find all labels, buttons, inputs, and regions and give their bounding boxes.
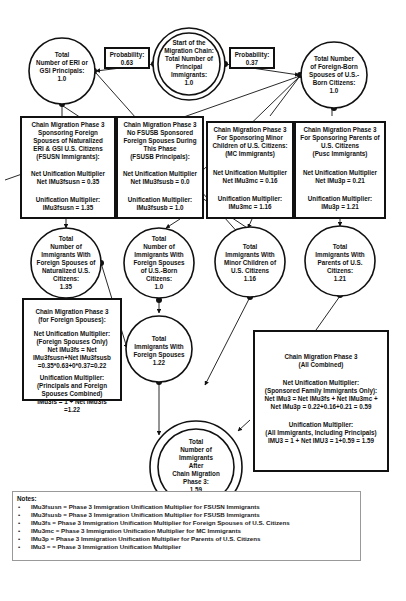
- foreign-spouses-node: Total Immigrants With Foreign Spouses 1.…: [125, 335, 193, 367]
- notes-list: IMu3fsusn = Phase 3 Immigration Unificat…: [17, 503, 356, 551]
- pusc-box: Chain Migration Phase 3 For Sponsoring P…: [294, 121, 386, 219]
- fsusb-title: Chain Migration Phase 3 No FSUSB Sponsor…: [118, 121, 202, 161]
- foreign-spouses-title: Chain Migration Phase 3 (for Foreign Spo…: [24, 308, 120, 324]
- fsusn-mult: Unification Multiplier: IMu3fsusn = 1.35: [22, 196, 114, 212]
- note-item: IMu3mc = Phase 3 Immigration Unification…: [17, 527, 356, 535]
- all-combined-mult: Unification Multiplier: (All Immigrants,…: [255, 421, 387, 445]
- note-item: IMu3fsusb = Phase 3 Immigration Unificat…: [17, 511, 356, 519]
- pusc-title: Chain Migration Phase 3 For Sponsoring P…: [296, 126, 384, 158]
- parents-node: Total Immigrants With Parents of U.S. Ci…: [306, 243, 374, 283]
- fsusn-box: Chain Migration Phase 3 Sponsoring Forei…: [20, 116, 116, 219]
- note-item: IMu3 = = Phase 3 Immigration Unification…: [17, 543, 356, 551]
- foreign-born-spouses-node: Total Number of Foreign-Born Spouses of …: [300, 55, 368, 95]
- foreign-spouses-mult: Unification Multiplier: (Principals and …: [24, 374, 120, 414]
- mc-net-mult: Unification Multiplier: IMu3mc = 1.16: [208, 195, 292, 211]
- mc-net: Net Unification Multiplier Net IMu3mc = …: [208, 169, 292, 185]
- mc-title: Chain Migration Phase 3 For Sponsoring M…: [208, 126, 292, 158]
- mc-box: Chain Migration Phase 3 For Sponsoring M…: [206, 121, 294, 219]
- pusc-net: Net Unification Multiplier Net IMu3p = 0…: [296, 169, 384, 185]
- foreign-spouses-box: Chain Migration Phase 3 (for Foreign Spo…: [22, 298, 122, 401]
- note-item: IMu3fsusn = Phase 3 Immigration Unificat…: [17, 503, 356, 511]
- note-item: IMu3fs = Phase 3 Immigration Unification…: [17, 519, 356, 527]
- all-combined-box: Chain Migration Phase 3 (All Combined) N…: [253, 330, 389, 472]
- fs-us-born-node: Total Number of Immigrants With Foreign …: [125, 235, 193, 291]
- foreign-spouses-net: Net Unification Multiplier: (Foreign Spo…: [24, 330, 120, 370]
- all-combined-title: Chain Migration Phase 3 (All Combined): [255, 353, 387, 369]
- all-combined-net: Net Unification Multiplier: (Sponsored F…: [255, 379, 387, 411]
- note-item: IMu3p = Phase 3 Immigration Unification …: [17, 535, 356, 543]
- probability-left-box: Probability: 0.63: [104, 47, 150, 69]
- minor-children-node: Total Immigrants With Minor Children of …: [216, 243, 284, 283]
- fsusb-net: Net Unification Multiplier Net IMu3fsusb…: [118, 170, 202, 186]
- probability-right-box: Probability: 0.37: [229, 47, 275, 69]
- fsusb-mult: Unification Multiplier: IMu3fsusb = 1.0: [118, 196, 202, 212]
- eri-gsi-principals-node: Total Number of ERI or GSI Principals: 1…: [30, 51, 94, 83]
- pusc-mult: Unification Multiplier: IMu3p = 1.21: [296, 195, 384, 211]
- total-after-node: Total Number of Immigrants After Chain M…: [160, 438, 232, 494]
- fsusb-box: Chain Migration Phase 3 No FSUSB Sponsor…: [116, 116, 204, 219]
- fs-naturalized-node: Total Number of Immigrants With Foreign …: [32, 235, 100, 291]
- notes-box: Notes: IMu3fsusn = Phase 3 Immigration U…: [12, 491, 361, 561]
- fsusn-net: Net Unification Multiplier Net IMu3fsusn…: [22, 170, 114, 186]
- start-node-label: Start of the Migration Chain: Total Numb…: [155, 39, 223, 87]
- notes-title: Notes:: [17, 495, 356, 503]
- fsusn-title: Chain Migration Phase 3 Sponsoring Forei…: [22, 121, 114, 161]
